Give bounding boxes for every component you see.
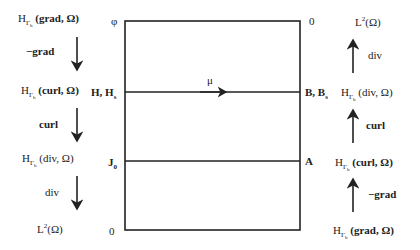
diagram-canvas (0, 0, 420, 250)
h-hs-label: H, Hs (91, 87, 116, 101)
right-space-curl: HΓb (curl, Ω) (335, 157, 393, 172)
right-op-curl: curl (366, 120, 385, 131)
j0-label: J0 (108, 157, 117, 171)
zero-top-right-label: 0 (309, 16, 315, 27)
right-space-l2: L2(Ω) (355, 16, 381, 28)
right-op-div: div (368, 50, 382, 61)
zero-bottom-left-label: 0 (109, 226, 115, 237)
left-space-curl: HΓh (curl, Ω) (21, 85, 79, 100)
left-space-div: HΓh (div, Ω) (22, 153, 74, 168)
left-op-curl: curl (39, 119, 58, 130)
left-space-l2: L2(Ω) (37, 223, 63, 235)
left-op-div: div (45, 187, 59, 198)
a-label: A (305, 156, 313, 167)
domain-box (125, 21, 300, 230)
right-op-neg-grad: −grad (368, 189, 396, 200)
mu-label: μ (207, 75, 213, 86)
left-op-neg-grad: −grad (26, 46, 54, 57)
right-space-div: HΓb (div, Ω) (341, 87, 393, 102)
right-space-grad: HΓb (grad, Ω) (333, 225, 394, 240)
phi-label: φ (111, 16, 117, 27)
b-bs-label: B, Bs (305, 87, 328, 101)
left-space-grad: HΓh (grad, Ω) (18, 13, 79, 28)
